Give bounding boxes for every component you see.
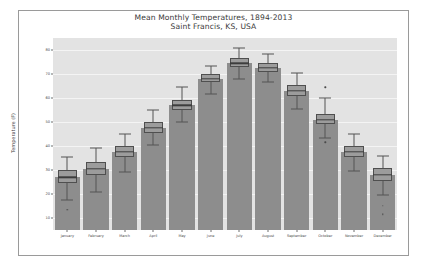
x-tick-mark (210, 230, 211, 232)
whisker-cap-lower (61, 200, 73, 201)
median-line (86, 168, 105, 169)
y-tick-mark (51, 98, 53, 99)
whisker-cap-upper (61, 156, 73, 157)
month-column (110, 38, 139, 230)
y-tick-label: 20 (45, 192, 50, 196)
y-tick-label: 10 (45, 216, 50, 220)
x-tick-label: October (318, 234, 332, 238)
whisker-cap-upper (176, 87, 188, 88)
y-tick-label: 70 (45, 72, 50, 76)
median-line (144, 127, 163, 128)
x-tick-mark (296, 230, 297, 232)
figure-panel: Mean Monthly Temperatures, 1894-2013 Sai… (18, 10, 409, 256)
whisker-cap-lower (205, 94, 217, 95)
whisker-cap-upper (205, 65, 217, 66)
x-tick-mark (96, 230, 97, 232)
whisker-cap-upper (377, 155, 389, 156)
whisker-cap-lower (90, 191, 102, 192)
y-tick-label: 30 (45, 168, 50, 172)
month-column (340, 38, 369, 230)
plot-area: 1020304050607080 (53, 38, 397, 230)
x-tick-mark (382, 230, 383, 232)
x-tick-label: November (345, 234, 363, 238)
x-tick-label: February (88, 234, 104, 238)
month-column (225, 38, 254, 230)
median-line (58, 176, 77, 177)
x-tick-label: June (207, 234, 215, 238)
whisker-cap-lower (176, 122, 188, 123)
x-tick-mark (354, 230, 355, 232)
y-tick-mark (51, 194, 53, 195)
chart-title: Mean Monthly Temperatures, 1894-2013 Sai… (19, 14, 408, 31)
x-axis-tick-labels: JanuaryFebruaryMarchAprilMayJuneJulyAugu… (53, 230, 397, 248)
y-tick-mark (51, 50, 53, 51)
x-tick-mark (67, 230, 68, 232)
median-line (230, 62, 249, 63)
whisker-cap-lower (262, 82, 274, 83)
x-tick-mark (268, 230, 269, 232)
median-line (172, 104, 191, 105)
median-line (373, 174, 392, 175)
month-column (254, 38, 283, 230)
x-tick-label: July (236, 234, 242, 238)
whisker-cap-upper (348, 134, 360, 135)
x-tick-mark (153, 230, 154, 232)
y-tick-label: 40 (45, 144, 50, 148)
median-line (287, 90, 306, 91)
whisker-cap-upper (291, 72, 303, 73)
whisker-cap-lower (377, 195, 389, 196)
x-tick-mark (239, 230, 240, 232)
month-column (282, 38, 311, 230)
y-tick-label: 80 (45, 48, 50, 52)
month-column (311, 38, 340, 230)
chart-title-line-2: Saint Francis, KS, USA (19, 23, 408, 32)
x-tick-mark (182, 230, 183, 232)
whisker-cap-lower (291, 108, 303, 109)
month-column (139, 38, 168, 230)
y-tick-mark (51, 146, 53, 147)
whisker-cap-lower (233, 78, 245, 79)
bar (284, 91, 309, 230)
x-tick-label: May (178, 234, 185, 238)
x-tick-label: September (287, 234, 306, 238)
bar (255, 68, 280, 230)
month-column (196, 38, 225, 230)
bar (198, 79, 223, 230)
x-tick-mark (325, 230, 326, 232)
bar (227, 63, 252, 230)
whisker-cap-lower (147, 144, 159, 145)
x-tick-label: January (61, 234, 74, 238)
whisker-cap-upper (90, 148, 102, 149)
whisker-cap-upper (262, 53, 274, 54)
month-column (368, 38, 397, 230)
y-tick-mark (51, 170, 53, 171)
median-line (201, 78, 220, 79)
y-axis-label: Temperature (F) (10, 113, 16, 153)
bar (169, 105, 194, 230)
month-column (82, 38, 111, 230)
month-column (168, 38, 197, 230)
y-tick-mark (51, 74, 53, 75)
whisker-cap-lower (348, 171, 360, 172)
x-tick-label: April (149, 234, 157, 238)
x-tick-label: August (262, 234, 274, 238)
median-line (258, 67, 277, 68)
outlier-point (325, 86, 326, 87)
x-tick-label: March (119, 234, 130, 238)
whisker-cap-upper (319, 98, 331, 99)
plot-content (53, 38, 397, 230)
whisker-cap-upper (233, 47, 245, 48)
y-tick-mark (51, 122, 53, 123)
x-tick-mark (124, 230, 125, 232)
whisker-cap-lower (119, 172, 131, 173)
y-tick-label: 60 (45, 96, 50, 100)
whisker-cap-upper (147, 110, 159, 111)
median-line (344, 151, 363, 152)
y-tick-label: 50 (45, 120, 50, 124)
y-tick-mark (51, 218, 53, 219)
median-line (316, 119, 335, 120)
whisker-cap-upper (119, 134, 131, 135)
median-line (115, 151, 134, 152)
whisker-cap-lower (319, 137, 331, 138)
x-tick-label: December (374, 234, 392, 238)
